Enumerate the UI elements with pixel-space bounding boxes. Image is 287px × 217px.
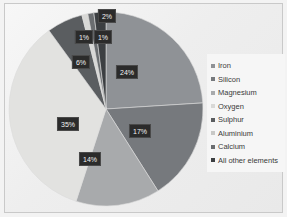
legend-swatch-icon [211, 145, 215, 149]
slice-label-oxygen: 35% [57, 117, 79, 131]
chart-legend: Iron Silicon Magnesium Oxygen Sulphur Al… [207, 54, 285, 172]
legend-swatch-icon [211, 64, 215, 68]
legend-item-all-other-elements[interactable]: All other elements [211, 154, 282, 168]
pie-chart-screenshot: 24% 17% 14% 35% 6% 1% 1% 2% Iron Silicon… [0, 0, 287, 217]
slice-label-sulphur: 6% [72, 55, 90, 69]
legend-swatch-icon [211, 77, 215, 81]
legend-item-magnesium[interactable]: Magnesium [211, 86, 282, 100]
legend-item-aluminium[interactable]: Aluminium [211, 127, 282, 141]
legend-label: Oxygen [218, 103, 244, 111]
pie-plot-area: 24% 17% 14% 35% 6% 1% 1% 2% [5, 4, 205, 214]
slice-label-calcium: 1% [94, 30, 112, 44]
slice-label-aluminium: 1% [75, 30, 93, 44]
legend-item-silicon[interactable]: Silicon [211, 73, 282, 87]
legend-item-iron[interactable]: Iron [211, 59, 282, 73]
legend-swatch-icon [211, 118, 215, 122]
legend-swatch-icon [211, 131, 215, 135]
slice-label-other-elements: 2% [98, 9, 116, 23]
legend-swatch-icon [211, 91, 215, 95]
legend-label: Sulphur [218, 116, 244, 124]
pie-slice-iron[interactable] [106, 12, 203, 109]
slice-label-magnesium: 14% [79, 152, 101, 166]
slice-label-silicon: 17% [129, 124, 151, 138]
legend-label: Calcium [218, 143, 245, 151]
legend-item-sulphur[interactable]: Sulphur [211, 113, 282, 127]
legend-label: All other elements [218, 157, 278, 165]
legend-label: Iron [218, 62, 231, 70]
legend-label: Aluminium [218, 130, 253, 138]
legend-label: Magnesium [218, 89, 257, 97]
legend-swatch-icon [211, 104, 215, 108]
legend-item-calcium[interactable]: Calcium [211, 140, 282, 154]
legend-swatch-icon [211, 158, 215, 162]
legend-label: Silicon [218, 76, 240, 84]
chart-frame: 24% 17% 14% 35% 6% 1% 1% 2% Iron Silicon… [4, 3, 283, 213]
legend-item-oxygen[interactable]: Oxygen [211, 100, 282, 114]
slice-label-iron: 24% [116, 65, 138, 79]
